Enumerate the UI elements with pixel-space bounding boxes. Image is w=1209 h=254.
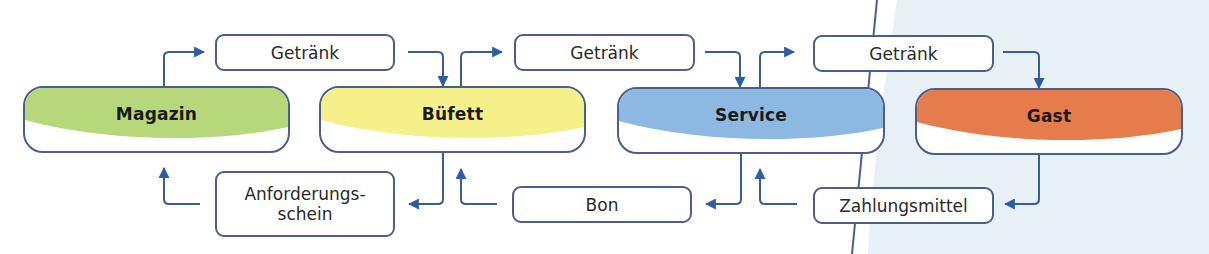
node-label: Büfett <box>321 104 584 124</box>
item-label-line1: Anforderungs- <box>244 184 365 204</box>
item-anforderungsschein: Anforderungs- schein <box>215 171 395 237</box>
item-bon: Bon <box>512 186 692 223</box>
node-gast: Gast <box>915 88 1183 155</box>
flow-diagram: Magazin Büfett Service Gast Getränk Getr… <box>0 0 1209 254</box>
item-label-line2: schein <box>278 204 333 224</box>
node-bufett: Büfett <box>319 86 586 153</box>
node-label: Magazin <box>25 104 288 124</box>
item-zahlungsmittel: Zahlungsmittel <box>813 187 994 224</box>
item-getraenk-3: Getränk <box>813 35 994 72</box>
item-label: Getränk <box>570 43 638 63</box>
item-label: Getränk <box>271 43 339 63</box>
node-service: Service <box>617 87 885 154</box>
item-label: Bon <box>586 195 619 215</box>
item-getraenk-1: Getränk <box>215 34 395 71</box>
item-label: Getränk <box>869 44 937 64</box>
node-label: Gast <box>917 106 1181 126</box>
node-magazin: Magazin <box>23 86 290 153</box>
item-label: Zahlungsmittel <box>839 196 968 216</box>
item-getraenk-2: Getränk <box>514 34 695 71</box>
node-label: Service <box>619 105 883 125</box>
